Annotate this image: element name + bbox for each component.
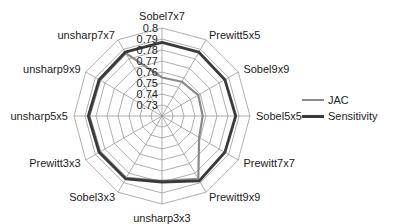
radial-tick-labels: 0.730.740.750.760.770.780.790.8 xyxy=(137,22,158,111)
radar-spokes xyxy=(74,28,250,204)
category-label: Sobel3x3 xyxy=(69,191,115,203)
radial-tick: 0.76 xyxy=(137,66,158,78)
category-label: Prewitt9x9 xyxy=(209,191,260,203)
legend-swatch-jac xyxy=(302,99,324,101)
category-label: unsharp5x5 xyxy=(11,110,69,122)
legend: JAC Sensitivity xyxy=(302,92,378,124)
category-label: Prewitt3x3 xyxy=(29,157,80,169)
radial-tick: 0.74 xyxy=(137,88,158,100)
category-label: Sobel7x7 xyxy=(139,10,185,22)
category-label: unsharp3x3 xyxy=(133,212,191,224)
category-label: Prewitt5x5 xyxy=(209,29,260,41)
radial-tick: 0.73 xyxy=(137,99,158,111)
radial-tick: 0.75 xyxy=(137,77,158,89)
category-label: unsharp9x9 xyxy=(23,63,81,75)
legend-swatch-sensitivity xyxy=(302,115,324,118)
radial-tick: 0.77 xyxy=(137,55,158,67)
category-label: unsharp7x7 xyxy=(58,29,116,41)
radial-tick: 0.78 xyxy=(137,44,158,56)
legend-label-sensitivity: Sensitivity xyxy=(328,110,378,122)
legend-item-jac: JAC xyxy=(302,92,378,108)
category-label: Prewitt7x7 xyxy=(243,157,294,169)
radial-tick: 0.8 xyxy=(143,22,158,34)
category-label: Sobel5x5 xyxy=(256,110,302,122)
legend-item-sensitivity: Sensitivity xyxy=(302,108,378,124)
radial-tick: 0.79 xyxy=(137,33,158,45)
category-label: Sobel9x9 xyxy=(243,63,289,75)
legend-label-jac: JAC xyxy=(328,94,349,106)
